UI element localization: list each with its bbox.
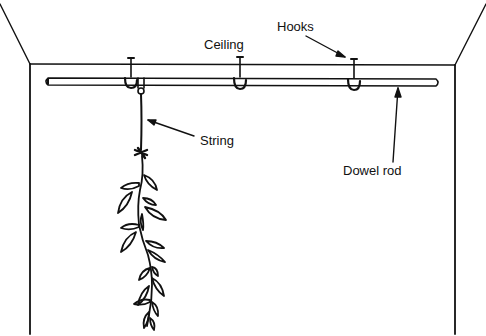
room-outline: [0, 4, 486, 334]
dowel-rod: [46, 78, 438, 86]
string: [135, 78, 147, 158]
herb-bundle: [118, 156, 166, 330]
drying-herbs-diagram: Ceiling Hooks String Dowel rod: [0, 0, 486, 336]
hooks-label: Hooks: [277, 20, 314, 33]
string-label: String: [200, 134, 234, 147]
dowel-rod-label: Dowel rod: [343, 164, 402, 177]
leader-arrows: [148, 36, 401, 162]
ceiling-label: Ceiling: [204, 38, 244, 51]
